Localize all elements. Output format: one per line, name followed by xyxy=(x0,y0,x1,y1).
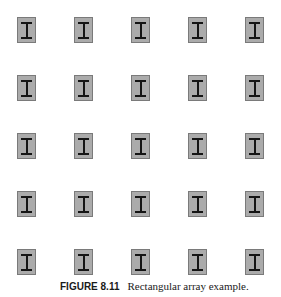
array-element xyxy=(74,75,93,101)
array-element xyxy=(188,249,207,275)
array-element xyxy=(245,133,264,159)
array-element xyxy=(74,17,93,43)
array-element xyxy=(74,133,93,159)
array-element xyxy=(17,191,36,217)
array-element xyxy=(74,191,93,217)
figure-label: FIGURE 8.11 xyxy=(60,281,119,292)
array-element xyxy=(245,249,264,275)
array-element xyxy=(131,17,150,43)
array-element xyxy=(188,133,207,159)
figure-caption: FIGURE 8.11Rectangular array example. xyxy=(60,280,249,292)
array-element xyxy=(131,133,150,159)
array-element xyxy=(245,191,264,217)
array-element xyxy=(131,249,150,275)
array-element xyxy=(131,75,150,101)
array-element xyxy=(131,191,150,217)
array-element xyxy=(17,17,36,43)
array-element xyxy=(245,17,264,43)
array-element xyxy=(74,249,93,275)
rectangular-array xyxy=(0,0,281,280)
array-element xyxy=(245,75,264,101)
figure-caption-text: Rectangular array example. xyxy=(127,280,248,292)
array-element xyxy=(17,249,36,275)
array-element xyxy=(17,133,36,159)
array-element xyxy=(188,75,207,101)
array-element xyxy=(188,17,207,43)
array-element xyxy=(17,75,36,101)
array-element xyxy=(188,191,207,217)
